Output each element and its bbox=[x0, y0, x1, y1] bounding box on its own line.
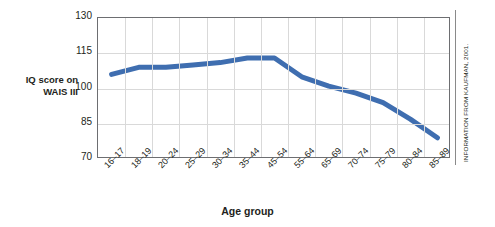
gridline-vertical bbox=[179, 18, 180, 157]
source-credit: INFORMATION FROM KAUFMAN, 2001. bbox=[462, 12, 476, 162]
gridline-vertical bbox=[288, 18, 289, 157]
gridline-vertical bbox=[207, 18, 208, 157]
gridline-vertical bbox=[234, 18, 235, 157]
gridline-vertical bbox=[261, 18, 262, 157]
y-axis-tick-label: 70 bbox=[52, 151, 92, 162]
gridline-vertical bbox=[397, 18, 398, 157]
gridlines bbox=[98, 18, 449, 157]
y-axis-tick-label: 130 bbox=[52, 10, 92, 21]
gridline-vertical bbox=[342, 18, 343, 157]
y-axis-tick-label: 115 bbox=[52, 45, 92, 56]
gridline-vertical bbox=[152, 18, 153, 157]
y-axis-tick-label: 100 bbox=[52, 81, 92, 92]
gridline-vertical bbox=[315, 18, 316, 157]
credit-divider bbox=[455, 10, 456, 165]
gridline-vertical bbox=[125, 18, 126, 157]
plot-area bbox=[97, 17, 450, 158]
gridline-vertical bbox=[370, 18, 371, 157]
x-axis-title: Age group bbox=[0, 205, 495, 217]
chart-figure: IQ score on WAIS III 7085100115130 16–17… bbox=[0, 0, 495, 227]
y-axis-tick-label: 85 bbox=[52, 116, 92, 127]
gridline-vertical bbox=[424, 18, 425, 157]
